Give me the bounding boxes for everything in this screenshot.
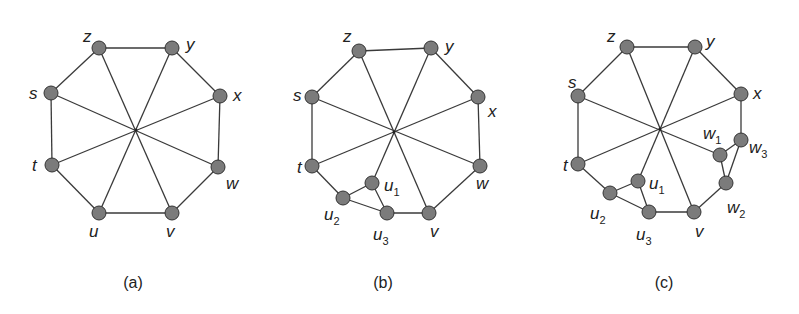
edge-w-v [172,167,218,213]
vertex-label-u2: u2 [590,204,606,226]
vertex-w2 [719,176,733,190]
vertex-w3 [734,133,748,147]
vertex-v [422,206,436,220]
vertex-label-x: x [232,86,242,105]
vertex-label-x: x [487,102,497,121]
edge-s-z [578,47,627,96]
vertex-y [688,40,702,54]
edge-y-x [695,47,741,94]
vertex-label-s: s [29,84,38,103]
vertex-x [213,89,227,103]
edge-y-u1 [638,47,695,181]
vertex-x [471,90,485,104]
vertex-w [473,159,487,173]
caption-c: (c) [655,274,674,291]
vertex-u2 [603,186,617,200]
vertex-label-s: s [293,86,302,105]
vertex-s [44,86,58,100]
center-point [135,129,138,132]
vertex-z [352,44,366,58]
center-point [393,131,396,134]
vertex-label-w: w [226,174,240,193]
vertex-w1 [713,148,727,162]
panel-a-graph: zyxwvuts [29,27,242,241]
vertex-label-t: t [563,156,569,175]
vertex-u3 [380,206,394,220]
edge-y-x [431,48,478,97]
vertex-label-u3: u3 [636,225,652,247]
vertex-u1 [631,174,645,188]
edge-s-z [51,48,99,93]
caption-b: (b) [373,274,393,291]
vertex-label-u2: u2 [324,205,340,227]
vertex-label-w3: w3 [749,138,767,160]
vertex-label-y: y [444,37,455,56]
vertex-label-u1: u1 [649,174,665,196]
vertex-u3 [642,205,656,219]
vertex-label-w1: w1 [703,124,721,146]
center-point [659,128,662,131]
vertex-s [305,90,319,104]
vertex-u2 [336,191,350,205]
vertex-label-w: w [476,174,490,193]
vertex-y [424,41,438,55]
vertex-t [571,157,585,171]
vertex-label-w2: w2 [727,198,745,220]
vertex-x [734,87,748,101]
edge-u-t [52,165,99,213]
vertex-label-t: t [297,158,303,177]
edge-w-v [429,166,480,213]
vertex-t [305,159,319,173]
vertex-label-z: z [342,27,352,46]
vertex-label-u: u [89,222,99,241]
graph-figure: zyxwvuts zyxwvu3u2u1ts zyxw3w1w2vu3u2u1t… [0,0,799,314]
vertex-label-z: z [606,27,616,46]
panel-c-graph: zyxw3w1w2vu3u2u1ts [563,27,767,247]
vertex-y [165,41,179,55]
vertex-label-y: y [185,35,196,54]
edge-t-s [51,93,52,165]
edge-y-u1 [372,48,431,183]
vertex-label-v: v [430,222,440,241]
panel-b-graph: zyxwvu3u2u1ts [293,27,497,247]
vertex-label-v: v [166,222,176,241]
vertex-w [211,160,225,174]
vertex-u1 [365,176,379,190]
edge-s-z [312,51,359,97]
vertex-label-t: t [32,156,38,175]
vertex-label-s: s [568,73,577,92]
vertex-label-v: v [695,222,705,241]
vertex-label-z: z [82,27,92,46]
vertex-z [620,40,634,54]
edge-w1-s [578,96,720,155]
vertex-label-y: y [705,32,716,51]
edge-x-w [218,96,220,167]
vertex-label-x: x [752,84,762,103]
caption-a: (a) [123,274,143,291]
edge-x-w [478,97,480,166]
vertex-label-u1: u1 [384,176,400,198]
vertex-u [92,206,106,220]
vertex-label-u3: u3 [373,225,389,247]
vertex-z [92,41,106,55]
edge-z-y [359,48,431,51]
vertex-t [45,158,59,172]
vertex-v [687,205,701,219]
vertex-v [165,206,179,220]
edge-y-x [172,48,220,96]
